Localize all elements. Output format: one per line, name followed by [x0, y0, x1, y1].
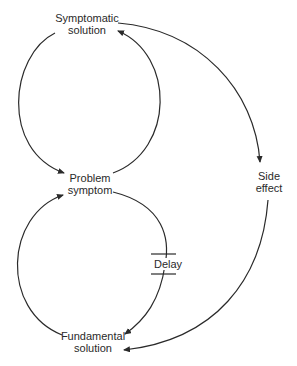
node-symptomatic-solution: Symptomatic solution — [53, 12, 121, 36]
delay-label: Delay — [153, 258, 183, 270]
node-symptomatic-solution-line1: Symptomatic — [53, 12, 121, 24]
arrow-symptomatic-to-problem — [19, 33, 64, 173]
arrow-problem-to-symptomatic — [113, 31, 160, 173]
arrow-fundamental-to-problem — [17, 195, 63, 335]
node-side-effect-line2: effect — [250, 182, 288, 194]
arrow-symptomatic-to-side-effect — [118, 23, 260, 162]
node-side-effect-line1: Side — [250, 170, 288, 182]
node-fundamental-solution-line1: Fundamental — [60, 330, 126, 342]
node-fundamental-solution: Fundamental solution — [60, 330, 126, 354]
node-side-effect: Side effect — [250, 170, 288, 194]
node-problem-symptom-line2: symptom — [66, 184, 114, 196]
node-problem-symptom-line1: Problem — [66, 172, 114, 184]
node-fundamental-solution-line2: solution — [60, 342, 126, 354]
arrow-side-effect-to-fundamental — [124, 200, 268, 350]
node-symptomatic-solution-line2: solution — [53, 24, 121, 36]
node-problem-symptom: Problem symptom — [66, 172, 114, 196]
